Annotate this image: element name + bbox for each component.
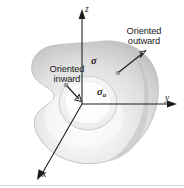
boundary-symbol-sigma-a: σa — [97, 86, 106, 100]
callout-outward-line1: Oriented — [113, 26, 175, 36]
callout-inward-line1: Oriented — [36, 64, 98, 74]
figure-container: Oriented outward Oriented inward z y x σ… — [0, 0, 184, 188]
surface-symbol-sigma: σ — [91, 55, 97, 66]
axis-label-y: y — [165, 93, 169, 103]
axis-label-z: z — [85, 4, 89, 14]
sigma-a-subscript: a — [103, 91, 107, 99]
sigma-a-base: σ — [97, 86, 103, 97]
callout-oriented-outward: Oriented outward — [113, 26, 175, 46]
callout-outward-line2: outward — [113, 36, 175, 46]
axis-label-x: x — [42, 169, 46, 179]
callout-inward-line2: inward — [36, 74, 98, 84]
callout-oriented-inward: Oriented inward — [36, 64, 98, 84]
